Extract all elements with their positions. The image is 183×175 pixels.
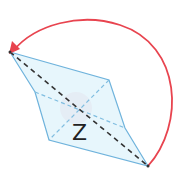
z-label: Z [72, 120, 87, 145]
vertex-top-left [9, 51, 12, 54]
vertex-bottom-right [147, 165, 150, 168]
rotation-diagram: Z [0, 0, 183, 175]
